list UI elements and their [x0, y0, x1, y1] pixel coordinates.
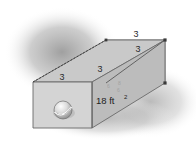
- vertex-dot-bottom-right: [163, 81, 166, 84]
- vertex-dot-end-top-left: [105, 39, 108, 42]
- geometry-figure: 3 3 3 3 18 ft 2 6 8 6: [0, 0, 196, 143]
- area-label-value: 18 ft: [96, 95, 115, 106]
- label-right-face-diagonal: 3: [135, 44, 140, 54]
- label-top-left-edge: 3: [59, 72, 64, 82]
- vertex-dot-top-right: [163, 38, 166, 41]
- faint-mark-2: 8: [118, 80, 121, 86]
- faint-mark-3: 6: [117, 87, 120, 93]
- label-top-mid-edge: 3: [97, 64, 102, 74]
- prism-diagram-svg: 3 3 3 3 18 ft 2 6 8 6: [0, 0, 196, 143]
- label-top-right-edge: 3: [133, 29, 138, 39]
- faint-mark-1: 6: [107, 83, 110, 89]
